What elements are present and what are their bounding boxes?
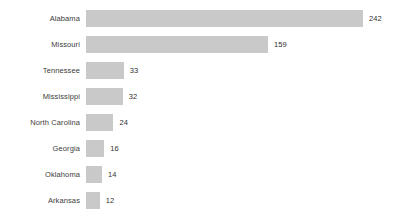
bar bbox=[86, 62, 124, 79]
category-label: North Carolina bbox=[0, 114, 80, 131]
bar-area: 24 bbox=[86, 114, 405, 131]
bar-area: 32 bbox=[86, 88, 405, 105]
value-label: 242 bbox=[369, 10, 382, 27]
bar bbox=[86, 140, 104, 157]
value-label: 33 bbox=[130, 62, 139, 79]
category-label: Oklahoma bbox=[0, 166, 80, 183]
bar bbox=[86, 88, 123, 105]
bar-row: Mississippi32 bbox=[0, 88, 405, 105]
bar-area: 33 bbox=[86, 62, 405, 79]
bar-row: North Carolina24 bbox=[0, 114, 405, 131]
bar bbox=[86, 166, 102, 183]
value-label: 24 bbox=[119, 114, 128, 131]
value-label: 32 bbox=[129, 88, 138, 105]
category-label: Missouri bbox=[0, 36, 80, 53]
bar-area: 159 bbox=[86, 36, 405, 53]
bar-row: Arkansas12 bbox=[0, 192, 405, 209]
bar bbox=[86, 36, 268, 53]
category-label: Arkansas bbox=[0, 192, 80, 209]
value-label: 16 bbox=[110, 140, 119, 157]
value-label: 159 bbox=[274, 36, 287, 53]
value-label: 14 bbox=[108, 166, 117, 183]
bar-area: 14 bbox=[86, 166, 405, 183]
bar-rows: Alabama242Missouri159Tennessee33Mississi… bbox=[0, 10, 405, 218]
bar bbox=[86, 114, 113, 131]
bar-row: Tennessee33 bbox=[0, 62, 405, 79]
category-label: Tennessee bbox=[0, 62, 80, 79]
bar bbox=[86, 192, 100, 209]
bar-area: 16 bbox=[86, 140, 405, 157]
category-label: Alabama bbox=[0, 10, 80, 27]
category-label: Mississippi bbox=[0, 88, 80, 105]
bar-row: Alabama242 bbox=[0, 10, 405, 27]
bar-area: 12 bbox=[86, 192, 405, 209]
bar-chart: Alabama242Missouri159Tennessee33Mississi… bbox=[0, 0, 405, 218]
category-label: Georgia bbox=[0, 140, 80, 157]
bar bbox=[86, 10, 363, 27]
bar-row: Oklahoma14 bbox=[0, 166, 405, 183]
bar-row: Missouri159 bbox=[0, 36, 405, 53]
value-label: 12 bbox=[106, 192, 115, 209]
bar-row: Georgia16 bbox=[0, 140, 405, 157]
bar-area: 242 bbox=[86, 10, 405, 27]
